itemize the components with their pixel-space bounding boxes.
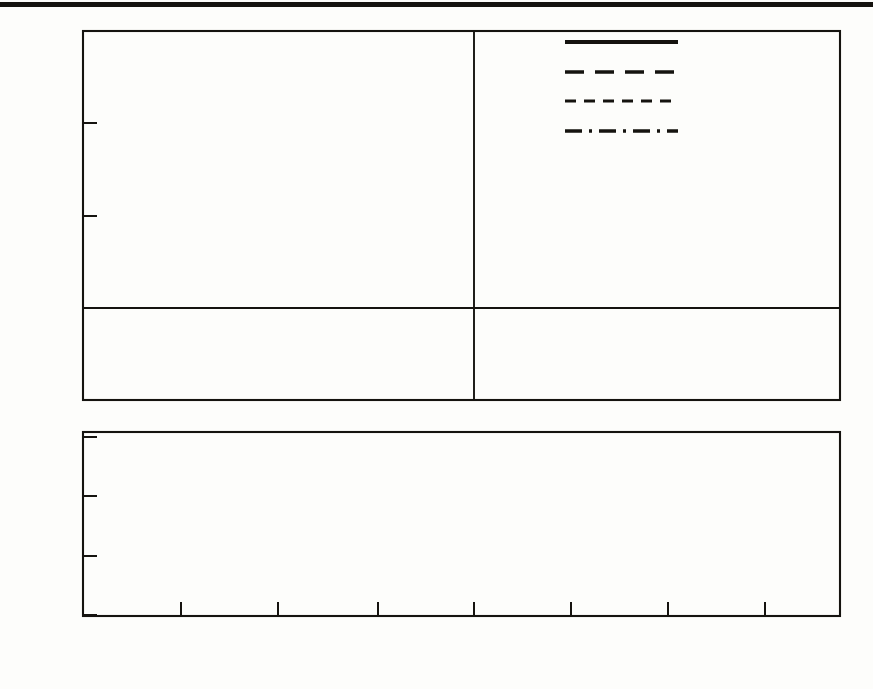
bottom-panel bbox=[83, 432, 840, 616]
bottom-panel-frame bbox=[83, 432, 840, 616]
bottom-panel-yticks bbox=[83, 437, 97, 615]
top-panel bbox=[83, 31, 840, 400]
bottom-panel-xticks bbox=[181, 602, 765, 616]
top-panel-frame bbox=[83, 31, 840, 400]
top-panel-yticks bbox=[83, 31, 97, 400]
chart-canvas bbox=[0, 0, 873, 689]
legend bbox=[565, 42, 678, 131]
figure-container bbox=[0, 0, 873, 689]
